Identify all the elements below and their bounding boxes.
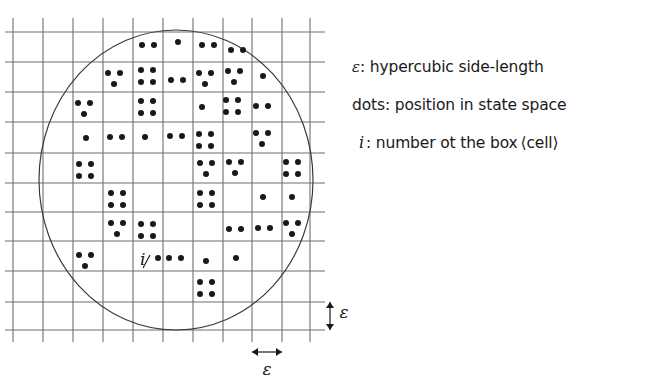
figure-root: εε i ε: hypercubic side-length dots: pos… (0, 0, 661, 389)
state-space-dot (260, 194, 266, 200)
state-space-dot (232, 170, 238, 176)
dot-cluster-one (83, 135, 89, 141)
cell-index-label: i (140, 249, 145, 269)
dot-cluster-one (233, 255, 239, 261)
arrowhead (326, 302, 334, 308)
dot-cluster-two-horizontal (199, 42, 217, 48)
dot-cluster-three (197, 160, 215, 177)
state-space-dot (238, 159, 244, 165)
vertical-epsilon-label: ε (339, 302, 348, 322)
state-space-dot (150, 233, 156, 239)
state-space-dot (138, 221, 144, 227)
state-space-dot (155, 255, 161, 261)
state-space-dot (208, 70, 214, 76)
state-space-dot (265, 103, 271, 109)
state-space-dot (167, 133, 173, 139)
dot-cluster-three (75, 100, 93, 117)
state-space-dot (179, 133, 185, 139)
state-space-dot (138, 110, 144, 116)
state-space-dot (208, 131, 214, 137)
legend-text-dots: position in state space (395, 96, 567, 114)
state-space-dot (139, 42, 145, 48)
legend-separator: : (366, 134, 371, 152)
state-space-dot (260, 73, 266, 79)
dot-cluster-four (223, 97, 241, 115)
state-space-dot (88, 252, 94, 258)
state-space-dot (197, 190, 203, 196)
dot-cluster-one (289, 194, 295, 200)
state-space-dot (231, 79, 237, 85)
state-space-dot (228, 47, 234, 53)
state-space-dot (289, 231, 295, 237)
state-space-dot (289, 194, 295, 200)
vertical-epsilon: ε (326, 302, 349, 330)
legend-entry-dots: dots: position in state space (352, 86, 652, 124)
state-space-dot (253, 130, 259, 136)
state-space-dot (168, 77, 174, 83)
italic-i-symbol: i (352, 133, 366, 152)
state-space-dot (114, 231, 120, 237)
dot-cluster-two-horizontal (166, 255, 184, 261)
state-space-dot (142, 134, 148, 140)
arrowhead (252, 348, 258, 356)
dot-cluster-four (197, 279, 215, 297)
state-space-dot (295, 220, 301, 226)
dot-cluster-three (283, 220, 301, 237)
state-space-dot (180, 77, 186, 83)
state-space-dot (76, 161, 82, 167)
state-space-dot (283, 159, 289, 165)
dot-cluster-three (196, 70, 214, 87)
dot-cluster-four (283, 159, 301, 177)
state-space-dot (138, 79, 144, 85)
arrowhead (326, 324, 334, 330)
state-space-dot (87, 100, 93, 106)
legend: ε: hypercubic side-length dots: position… (352, 48, 652, 162)
state-space-dot (197, 160, 203, 166)
dot-cluster-two-horizontal (253, 103, 271, 109)
dot-cluster-three (108, 220, 126, 237)
dot-cluster-one (175, 39, 181, 45)
state-space-dot (197, 202, 203, 208)
state-space-dot (209, 160, 215, 166)
state-space-dot (138, 98, 144, 104)
state-space-dot (83, 135, 89, 141)
dot-cluster-three (226, 159, 244, 176)
state-space-dot (240, 47, 246, 53)
dot-cluster-three (253, 130, 271, 147)
state-space-dot (202, 81, 208, 87)
state-space-dot (175, 39, 181, 45)
dot-cluster-three (225, 68, 243, 85)
dot-cluster-one (260, 194, 266, 200)
attractor-boundary-circle (39, 30, 313, 330)
state-space-dot (88, 161, 94, 167)
dot-cluster-four (108, 190, 126, 208)
grid-lines (5, 18, 325, 342)
dot-cluster-two-horizontal (226, 226, 244, 232)
state-space-dot (151, 42, 157, 48)
dot-cluster-two-horizontal (139, 42, 157, 48)
state-space-dot (199, 42, 205, 48)
state-space-dot (138, 67, 144, 73)
state-space-dot (238, 226, 244, 232)
state-space-dot (120, 190, 126, 196)
dot-cluster-two-horizontal (167, 133, 185, 139)
dot-cluster-one (199, 104, 205, 110)
state-space-dot (209, 291, 215, 297)
state-space-dot (108, 190, 114, 196)
state-space-dot (237, 68, 243, 74)
state-space-dot (209, 190, 215, 196)
state-space-dot (150, 221, 156, 227)
dot-cluster-two-horizontal (107, 134, 125, 140)
state-space-dot (225, 68, 231, 74)
dots-word: dots (352, 96, 385, 114)
state-space-dot (150, 79, 156, 85)
dot-cluster-four (138, 221, 156, 239)
state-space-dot (211, 42, 217, 48)
legend-entry-i: i: number ot the box ⟨cell⟩ (352, 124, 652, 162)
state-space-dot (107, 134, 113, 140)
state-space-dot (120, 202, 126, 208)
state-space-dot (259, 141, 265, 147)
legend-entry-epsilon: ε: hypercubic side-length (352, 48, 652, 86)
state-space-dot (88, 173, 94, 179)
legend-separator: : (360, 58, 365, 76)
